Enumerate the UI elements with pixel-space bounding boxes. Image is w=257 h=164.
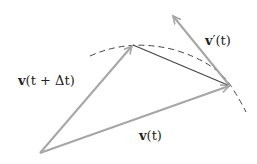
label-v-t: v(t) [139,129,162,142]
difference-chord [133,45,230,86]
label-v-t-plus-dt-bold: v [18,73,26,88]
label-v-prime-t: v′(t) [205,34,231,47]
label-v-prime-bold: v [205,33,213,48]
label-v-t-plus-dt: v(t + Δt) [18,74,75,87]
vector-v-prime-arrow [173,16,230,86]
label-v-t-bold: v [139,128,147,143]
label-v-prime-rest: ′(t) [213,33,231,48]
label-v-t-plus-dt-rest: (t + Δt) [26,73,75,88]
label-v-t-rest: (t) [147,128,162,143]
trajectory-dashed-curve [90,45,246,112]
